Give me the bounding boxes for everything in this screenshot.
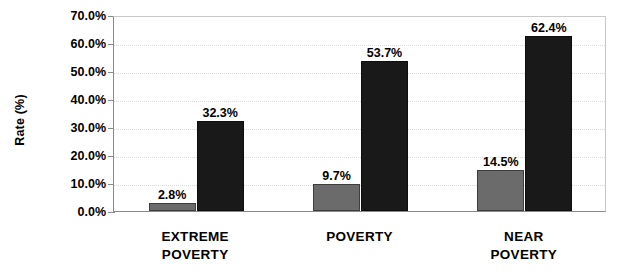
- y-axis-tick-label: 0.0%: [30, 206, 106, 219]
- bar-value-label: 2.8%: [158, 189, 187, 202]
- y-axis-tick-mark: [108, 212, 115, 213]
- bar: [149, 203, 196, 211]
- bar: [525, 36, 572, 211]
- bar: [313, 184, 360, 211]
- y-axis-title-text: Rate (%): [13, 94, 27, 146]
- y-axis-tick-label: 70.0%: [30, 10, 106, 23]
- y-axis-tick-label: 40.0%: [30, 94, 106, 107]
- y-axis-tick-label: 10.0%: [30, 178, 106, 191]
- bar-value-label: 62.4%: [531, 22, 566, 35]
- y-axis-tick-labels: 0.0%10.0%20.0%30.0%40.0%50.0%60.0%70.0%: [30, 0, 106, 276]
- x-axis-category-label: NEAR POVERTY: [483, 228, 565, 264]
- bar: [361, 61, 408, 211]
- plot-area: 2.8%32.3%9.7%53.7%14.5%62.4%: [113, 16, 606, 212]
- y-axis-tick-label: 20.0%: [30, 150, 106, 163]
- bar: [197, 121, 244, 211]
- bar-value-label: 14.5%: [483, 156, 518, 169]
- x-axis-category-label: EXTREME POVERTY: [161, 228, 228, 264]
- bar-value-label: 9.7%: [322, 170, 351, 183]
- bar-value-label: 32.3%: [202, 107, 237, 120]
- y-axis-tick-label: 30.0%: [30, 122, 106, 135]
- x-axis-category-labels: EXTREME POVERTYPOVERTYNEAR POVERTY: [113, 214, 606, 276]
- x-axis-category-label: POVERTY: [326, 228, 393, 246]
- bar: [477, 170, 524, 211]
- y-axis-tick-label: 50.0%: [30, 66, 106, 79]
- y-axis-tick-label: 60.0%: [30, 38, 106, 51]
- bar-value-label: 53.7%: [367, 47, 402, 60]
- bar-chart: Rate (%) 0.0%10.0%20.0%30.0%40.0%50.0%60…: [0, 0, 628, 276]
